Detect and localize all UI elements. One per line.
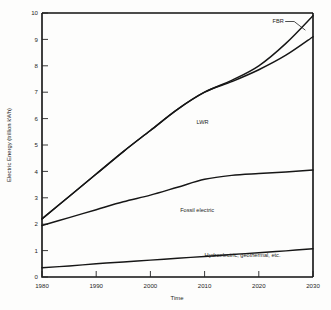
series-line-fossil xyxy=(42,170,313,225)
series-label-lwr: LWR xyxy=(196,119,208,125)
y-tick-label: 10 xyxy=(31,9,38,16)
y-tick-label: 8 xyxy=(35,62,39,69)
line-chart: 012345678910 198019902000201020202030 FB… xyxy=(0,0,331,310)
plot-frame xyxy=(42,13,313,277)
series-annotations: FBRLWRFossil electricHydroelectric, geot… xyxy=(180,18,284,258)
y-tick-label: 2 xyxy=(35,220,39,227)
y-axis-title: Electric Energy (trillion kWh) xyxy=(6,108,12,182)
y-tick-label: 6 xyxy=(35,115,39,122)
x-tick-label: 1980 xyxy=(35,282,49,289)
y-tick-label: 3 xyxy=(35,194,39,201)
y-tick-label: 4 xyxy=(35,168,39,175)
y-tick-label: 9 xyxy=(35,36,39,43)
x-axis-ticks: 198019902000201020202030 xyxy=(35,271,320,289)
y-tick-label: 7 xyxy=(35,88,39,95)
series-label-fbr: FBR xyxy=(273,18,284,24)
x-tick-label: 2030 xyxy=(306,282,320,289)
axis-left-bottom xyxy=(42,13,313,277)
x-tick-label: 1990 xyxy=(89,282,103,289)
x-axis-title: Time xyxy=(171,295,185,301)
y-tick-label: 0 xyxy=(35,273,39,280)
series-line-lwr xyxy=(42,37,313,219)
chart-container: 012345678910 198019902000201020202030 FB… xyxy=(0,0,331,310)
series-group xyxy=(42,16,313,268)
x-tick-label: 2020 xyxy=(252,282,266,289)
series-label-hydroelectric: Hydroelectric, geothermal, etc. xyxy=(205,252,281,258)
y-tick-label: 5 xyxy=(35,141,39,148)
x-tick-label: 2000 xyxy=(144,282,158,289)
series-label-fossil: Fossil electric xyxy=(180,207,214,213)
series-line-fbr xyxy=(42,16,313,219)
x-tick-label: 2010 xyxy=(198,282,212,289)
y-tick-label: 1 xyxy=(35,247,39,254)
y-axis-ticks: 012345678910 xyxy=(31,9,48,280)
